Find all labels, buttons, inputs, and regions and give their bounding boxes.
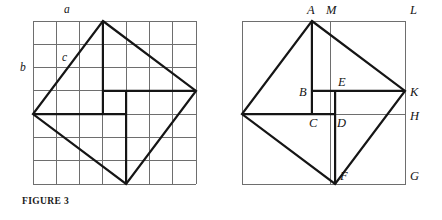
figure-3: a b c FIGURE 3 (0, 0, 221, 220)
label-H: H (410, 110, 419, 123)
label-b: b (20, 62, 26, 74)
label-B: B (299, 86, 307, 99)
construction-lines (242, 21, 405, 184)
inner-cross-segments (33, 21, 196, 184)
label-c: c (62, 52, 67, 64)
label-F: F (340, 170, 348, 183)
figure-3-prime: A M L B E K C D H F G FIGURE 3′ (221, 0, 442, 220)
tilted-square-AKF (242, 21, 405, 184)
figures-container: a b c FIGURE 3 (0, 0, 442, 220)
label-a: a (64, 4, 70, 16)
tilted-square (33, 21, 196, 184)
label-D: D (337, 117, 346, 130)
grid-lines (33, 21, 196, 184)
inner-cross-segments (242, 21, 405, 184)
label-A: A (307, 4, 315, 17)
label-L: L (410, 4, 417, 17)
figure-3-caption: FIGURE 3 (22, 196, 69, 206)
outer-square (242, 21, 405, 184)
label-E: E (338, 76, 346, 89)
label-M: M (326, 4, 336, 17)
label-C: C (309, 117, 317, 130)
label-K: K (410, 86, 418, 99)
figure-3-drawing (0, 0, 221, 220)
label-G: G (410, 170, 419, 183)
figure-3-prime-drawing (221, 0, 442, 220)
